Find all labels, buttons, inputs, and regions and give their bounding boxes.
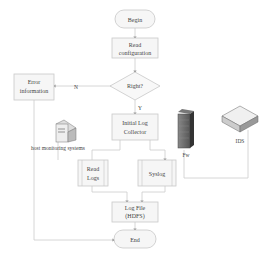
svg-text:Syslog: Syslog	[149, 171, 165, 177]
host-label: host monitoring systems	[31, 145, 85, 151]
svg-text:End: End	[130, 237, 140, 243]
svg-text:Log File: Log File	[125, 205, 146, 211]
flowchart: Begin Read configuration Right? N Y Erro…	[0, 0, 270, 258]
ids-device-icon	[222, 106, 258, 132]
svg-text:Error: Error	[28, 79, 41, 85]
svg-text:Logs: Logs	[87, 175, 100, 181]
host-server-icon	[56, 120, 76, 142]
svg-text:Initial Log: Initial Log	[122, 120, 148, 126]
svg-text:Read: Read	[87, 166, 99, 172]
ids-label: IDS	[236, 138, 245, 144]
svg-text:Collector: Collector	[124, 129, 146, 135]
svg-text:information: information	[20, 88, 48, 94]
right-decision: Right?	[110, 72, 160, 100]
read-configuration-box: Read configuration	[112, 38, 158, 58]
svg-text:Right?: Right?	[127, 83, 143, 89]
svg-text:(HDFS): (HDFS)	[125, 213, 144, 220]
yes-edge-label: Y	[138, 105, 142, 111]
error-information-box: Error information	[14, 74, 54, 100]
end-terminal: End	[114, 230, 156, 248]
fw-label: Fw	[182, 152, 189, 158]
read-logs-process: Read Logs	[78, 160, 108, 186]
log-file-hdfs-box: Log File (HDFS)	[112, 202, 158, 222]
svg-text:configuration: configuration	[119, 50, 151, 56]
svg-text:Read: Read	[129, 42, 141, 48]
syslog-process: Syslog	[138, 160, 176, 186]
firewall-icon	[178, 109, 194, 148]
no-edge-label: N	[74, 84, 78, 90]
initial-log-collector-box: Initial Log Collector	[112, 114, 158, 140]
begin-terminal: Begin	[115, 10, 155, 28]
svg-text:Begin: Begin	[128, 17, 142, 23]
